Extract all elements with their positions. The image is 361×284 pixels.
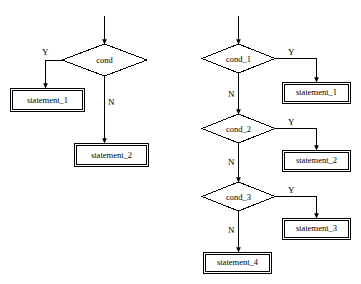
right-yes-label-2: Y <box>288 118 295 127</box>
right-yes-edge-1 <box>275 59 317 81</box>
right-statement-3-label: statement_3 <box>282 224 351 233</box>
left-yes-label: Y <box>42 48 49 57</box>
right-decision-cond-1-label: cond_1 <box>202 55 275 64</box>
left-decision-cond-label: cond <box>62 56 147 65</box>
right-decision-cond-3-label: cond_3 <box>202 193 275 202</box>
right-statement-4-label: statement_4 <box>203 258 272 267</box>
flowchart-diagram: cond Y statement_1 N statement_2 cond_1 … <box>0 0 361 284</box>
right-decision-cond-2-label: cond_2 <box>202 125 275 134</box>
right-yes-label-3: Y <box>288 186 295 195</box>
left-statement-1-label: statement_1 <box>10 96 85 105</box>
diagram-canvas <box>0 0 361 284</box>
right-no-label-2: N <box>228 158 235 167</box>
right-no-label-1: N <box>228 90 235 99</box>
right-no-label-3: N <box>228 226 235 235</box>
right-yes-edge-3 <box>275 197 317 217</box>
right-yes-edge-2 <box>275 129 317 149</box>
left-no-label: N <box>108 98 115 107</box>
right-yes-label-1: Y <box>288 48 295 57</box>
left-statement-2-label: statement_2 <box>74 151 149 160</box>
right-statement-2-label: statement_2 <box>282 156 351 165</box>
right-statement-1-label: statement_1 <box>282 88 351 97</box>
left-yes-edge <box>46 60 63 86</box>
